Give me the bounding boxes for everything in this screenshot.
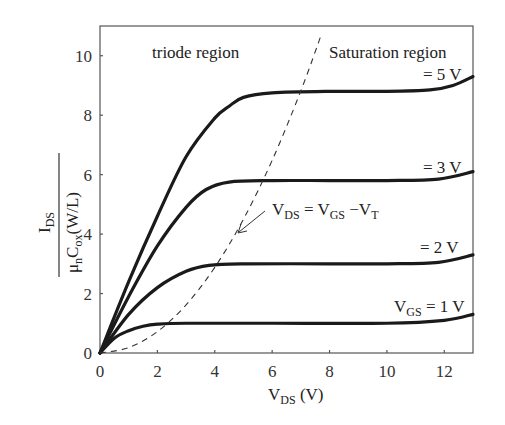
y-tick-label: 0 <box>84 344 93 363</box>
x-axis-label: VDS (V) <box>268 385 323 407</box>
x-tick-label: 4 <box>211 362 220 381</box>
triode-region-label: triode region <box>152 43 240 62</box>
y-axis-label: IDS μnCox(W/L) <box>35 153 85 277</box>
saturation-region-label: Saturation region <box>329 43 447 62</box>
x-tick-label: 2 <box>153 362 162 381</box>
vgs-3v-label: = 3 V <box>423 158 462 177</box>
vgs-1v-label: VGS = 1 V <box>394 297 465 319</box>
y-tick-label: 6 <box>84 166 93 185</box>
x-tick-label: 10 <box>378 362 395 381</box>
boundary-equation-label: VDS = VGS −VT <box>272 200 379 222</box>
x-tick-label: 8 <box>325 362 334 381</box>
svg-text:μnCox(W/L): μnCox(W/L) <box>63 192 85 273</box>
vgs-2v-label: = 2 V <box>420 238 459 257</box>
saturation-boundary-curve <box>100 34 322 353</box>
svg-text:IDS: IDS <box>35 212 57 233</box>
vgs-5v-label: = 5 V <box>423 65 462 84</box>
iv-curve <box>100 314 473 353</box>
plot-frame <box>100 26 473 353</box>
x-tick-label: 0 <box>96 362 105 381</box>
y-tick-label: 2 <box>84 285 93 304</box>
y-tick-label: 8 <box>84 106 93 125</box>
iv-curve <box>100 255 473 353</box>
y-tick-label: 10 <box>75 47 92 66</box>
x-tick-label: 6 <box>268 362 277 381</box>
mosfet-iv-chart: 0246810120246810 triode region Saturatio… <box>0 0 505 425</box>
x-tick-label: 12 <box>436 362 453 381</box>
